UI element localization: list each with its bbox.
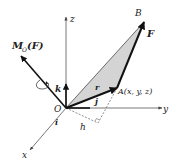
origin-label: O	[54, 104, 62, 114]
moment-label-arg: (F)	[27, 40, 44, 51]
y-axis-label: y	[162, 104, 169, 114]
unit-k-label: k	[55, 84, 61, 94]
point-a-label: A(x, y, z)	[117, 87, 152, 96]
x-axis	[30, 108, 66, 150]
force-label: F	[146, 28, 155, 39]
lever-arm-label: h	[80, 122, 86, 132]
right-angle-mark	[95, 119, 100, 122]
z-axis-label: z	[69, 14, 75, 24]
moment-diagram: z y x O B A(x, y, z) F r i j k h M O (F)	[0, 0, 173, 166]
moment-label: M O (F)	[11, 40, 44, 53]
x-axis-label: x	[22, 150, 27, 160]
rotation-arrowhead	[46, 81, 49, 85]
unit-i-label: i	[55, 117, 58, 127]
point-b-label: B	[134, 8, 142, 18]
moment-vector	[21, 56, 66, 108]
